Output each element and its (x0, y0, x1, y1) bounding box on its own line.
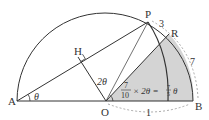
label-B: B (195, 100, 202, 112)
label-arc-7: 7 (190, 56, 195, 67)
result-denominator: 5 (167, 91, 170, 97)
result-numerator: 7 (167, 84, 170, 90)
label-arc-1: 1 (146, 107, 151, 118)
label-arc-3: 3 (159, 18, 164, 29)
frac-denominator: 10 (121, 91, 129, 100)
label-O: O (101, 106, 109, 118)
label-A: A (8, 95, 16, 107)
label-H: H (74, 45, 82, 57)
angle-arc-A (28, 94, 30, 101)
label-theta: θ (34, 91, 39, 102)
times-expression: × 2θ = (133, 86, 159, 96)
label-R: R (171, 27, 179, 39)
frac-numerator: 7 (124, 81, 128, 90)
result-variable: θ (173, 86, 178, 96)
label-two-theta: 2θ (97, 76, 107, 87)
geometry-diagram: A O B P H R θ 2θ 3 7 1 7 10 × 2θ = 7 5 θ (0, 0, 209, 120)
label-P: P (145, 8, 151, 20)
